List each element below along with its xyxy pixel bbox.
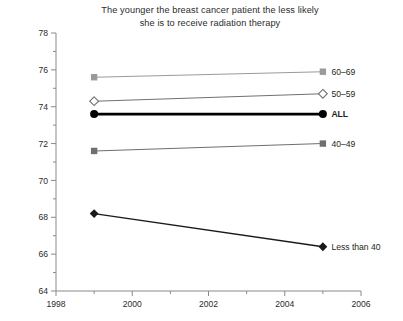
data-point-marker[interactable] [91, 74, 97, 80]
data-series [91, 69, 326, 81]
y-axis-tick-label: 66 [38, 249, 48, 259]
data-series-layer [90, 69, 328, 252]
diamond-open-marker-icon [90, 97, 99, 106]
circle-marker-icon [319, 110, 327, 118]
y-axis-tick-label: 78 [38, 28, 48, 38]
series-line [94, 72, 323, 78]
data-point-marker[interactable] [91, 148, 97, 154]
chart-container: The younger the breast cancer patient th… [0, 0, 403, 321]
x-axis-tick-label: 2002 [199, 299, 218, 309]
plot-area: 646668707274767819982000200220042006 60–… [0, 0, 403, 321]
series-line [94, 144, 323, 151]
data-point-marker[interactable] [319, 110, 327, 118]
square-marker-icon [320, 140, 326, 146]
data-point-marker[interactable] [320, 69, 326, 75]
data-point-marker[interactable] [90, 97, 99, 106]
series-line [94, 214, 323, 247]
data-point-marker[interactable] [90, 110, 98, 118]
series-label-4: Less than 40 [331, 242, 380, 252]
series-labels-layer: 60–6950–59ALL40–49Less than 40 [331, 67, 380, 252]
series-label-2: ALL [331, 109, 348, 119]
data-point-marker[interactable] [318, 242, 327, 251]
y-axis-tick-label: 64 [38, 286, 48, 296]
data-point-marker[interactable] [320, 140, 326, 146]
y-axis-tick-label: 68 [38, 212, 48, 222]
diamond-marker-icon [318, 242, 327, 251]
x-axis-tick-label: 2004 [275, 299, 294, 309]
data-series [90, 110, 327, 118]
circle-marker-icon [90, 110, 98, 118]
series-label-0: 60–69 [331, 67, 355, 77]
diamond-open-marker-icon [318, 89, 327, 98]
y-axis-tick-label: 72 [38, 139, 48, 149]
square-marker-icon [91, 74, 97, 80]
series-label-3: 40–49 [331, 139, 355, 149]
data-point-marker[interactable] [318, 89, 327, 98]
series-label-1: 50–59 [331, 89, 355, 99]
diamond-marker-icon [90, 209, 99, 218]
data-series [90, 209, 328, 251]
data-series [91, 140, 326, 154]
x-axis-tick-label: 2000 [123, 299, 142, 309]
y-axis-tick-label: 70 [38, 176, 48, 186]
square-marker-icon [320, 69, 326, 75]
data-point-marker[interactable] [90, 209, 99, 218]
series-line [94, 94, 323, 101]
data-series [90, 89, 328, 105]
y-axis-tick-label: 76 [38, 65, 48, 75]
x-axis-tick-label: 2006 [351, 299, 370, 309]
x-axis-tick-label: 1998 [46, 299, 65, 309]
y-axis-tick-label: 74 [38, 102, 48, 112]
square-marker-icon [91, 148, 97, 154]
